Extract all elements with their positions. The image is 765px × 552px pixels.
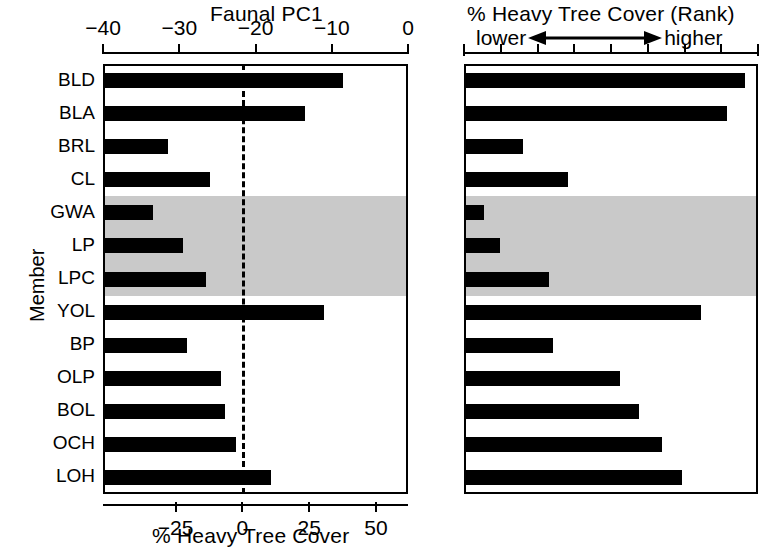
axis-tick: [684, 44, 686, 53]
axis-tick: [610, 44, 612, 53]
table-row: [103, 371, 221, 386]
axis-tick-label: 0: [378, 16, 438, 40]
category-label-brl: BRL: [25, 135, 95, 157]
category-label-cl: CL: [25, 168, 95, 190]
table-row: [464, 437, 662, 452]
table-row: [103, 305, 324, 320]
table-row: [103, 106, 305, 121]
axis-tick-label: 25: [279, 516, 339, 540]
table-row: [103, 139, 168, 154]
axis-tick: [331, 44, 333, 54]
table-row: [464, 305, 701, 320]
axis-tick: [537, 44, 539, 53]
axis-tick-label: −10: [302, 16, 362, 40]
category-label-bla: BLA: [25, 102, 95, 124]
table-row: [103, 205, 153, 220]
table-row: [103, 470, 271, 485]
table-row: [464, 272, 549, 287]
table-row: [464, 404, 639, 419]
double-headed-arrow-icon: [526, 28, 664, 49]
table-row: [464, 172, 568, 187]
category-label-lpc: LPC: [25, 267, 95, 289]
table-row: [464, 139, 523, 154]
table-row: [464, 205, 484, 220]
table-row: [464, 106, 727, 121]
axis-tick: [720, 44, 722, 53]
axis-tick-label: −40: [73, 16, 133, 40]
axis-tick: [463, 44, 465, 56]
axis-tick: [757, 44, 759, 56]
table-row: [464, 470, 682, 485]
left-plot-area: [103, 64, 408, 494]
axis-tick: [375, 502, 377, 512]
category-label-lp: LP: [25, 234, 95, 256]
table-row: [103, 238, 183, 253]
category-label-bol: BOL: [25, 399, 95, 421]
figure-root: Faunal PC1 % Heavy Tree Cover Member % H…: [0, 0, 765, 552]
axis-tick-label: 0: [212, 516, 272, 540]
axis-tick: [178, 44, 180, 54]
table-row: [464, 338, 553, 353]
rank-higher-label: higher: [664, 26, 722, 50]
right-panel: [464, 64, 758, 494]
left-bottom-axis-line: [103, 504, 408, 506]
table-row: [103, 272, 206, 287]
rank-direction-legend: lower higher: [476, 26, 723, 50]
category-label-gwa: GWA: [25, 201, 95, 223]
table-row: [103, 73, 343, 88]
category-label-bld: BLD: [25, 69, 95, 91]
table-row: [464, 371, 620, 386]
category-label-och: OCH: [25, 432, 95, 454]
right-panel-top-title: % Heavy Tree Cover (Rank): [467, 2, 735, 26]
category-label-olp: OLP: [25, 366, 95, 388]
category-label-bp: BP: [25, 333, 95, 355]
table-row: [103, 338, 187, 353]
axis-tick: [175, 502, 177, 512]
category-label-loh: LOH: [25, 465, 95, 487]
axis-tick: [407, 44, 409, 54]
table-row: [103, 404, 225, 419]
category-label-yol: YOL: [25, 300, 95, 322]
axis-tick-label: 50: [346, 516, 406, 540]
axis-tick: [573, 44, 575, 53]
axis-tick-label: −30: [149, 16, 209, 40]
axis-tick-label: −20: [226, 16, 286, 40]
axis-tick: [647, 44, 649, 53]
table-row: [464, 73, 745, 88]
axis-tick: [241, 502, 243, 512]
table-row: [103, 172, 210, 187]
table-row: [103, 437, 236, 452]
axis-tick: [308, 502, 310, 512]
right-plot-area: [464, 64, 758, 494]
left-panel: [103, 64, 408, 494]
table-row: [464, 238, 500, 253]
axis-tick-label: −25: [146, 516, 206, 540]
axis-tick: [500, 44, 502, 53]
axis-tick: [102, 44, 104, 54]
axis-tick: [255, 44, 257, 54]
zero-reference-line: [242, 64, 245, 494]
